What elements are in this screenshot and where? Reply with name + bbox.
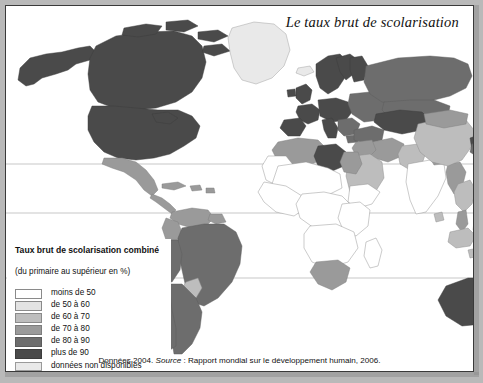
legend-item: moins de 50 <box>15 288 167 300</box>
legend-item: de 50 à 60 <box>15 300 167 312</box>
legend-label: de 50 à 60 <box>51 300 90 311</box>
legend-label: de 70 à 80 <box>51 324 90 335</box>
map-caption: Données 2004. Source : Rapport mondial s… <box>6 356 473 365</box>
region-oceania <box>438 192 474 326</box>
map-legend: Taux brut de scolarisation combiné (du p… <box>7 239 171 360</box>
caption-data-note: Données 2004. <box>98 356 153 365</box>
legend-heading: Taux brut de scolarisation combiné <box>15 245 165 255</box>
map-frame: Le taux brut de scolarisation Taux brut … <box>5 5 474 372</box>
caption-source-text: : Rapport mondial sur le développement h… <box>183 356 380 365</box>
frame-shadow-bottom <box>5 372 479 377</box>
legend-swatch-de-70-a-80 <box>15 325 42 335</box>
map-figure: Le taux brut de scolarisation Taux brut … <box>0 0 483 383</box>
legend-label: moins de 50 <box>51 288 96 299</box>
legend-swatch-de-60-a-70 <box>15 313 42 323</box>
map-title: Le taux brut de scolarisation <box>286 14 459 31</box>
legend-label: de 80 à 90 <box>51 336 90 347</box>
legend-item: de 80 à 90 <box>15 336 167 348</box>
legend-label: de 60 à 70 <box>51 312 90 323</box>
caption-source-label: Source <box>156 356 182 365</box>
frame-shadow-right <box>474 5 479 375</box>
legend-swatch-de-50-a-60 <box>15 301 42 311</box>
legend-swatch-moins-de-50 <box>15 289 42 299</box>
legend-item: de 60 à 70 <box>15 312 167 324</box>
legend-subheading: (du primaire au supérieur en %) <box>15 267 167 277</box>
legend-swatch-de-80-a-90 <box>15 337 42 347</box>
legend-item: de 70 à 80 <box>15 324 167 336</box>
